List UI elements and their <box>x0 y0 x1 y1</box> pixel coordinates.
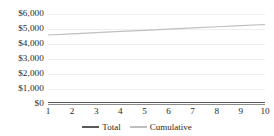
x-axis-line <box>48 104 265 105</box>
legend-item[interactable]: Total <box>82 122 120 132</box>
x-axis-tick-label: 6 <box>166 106 171 117</box>
x-axis-tick-label: 4 <box>118 106 123 117</box>
x-axis-labels: 12345678910 <box>48 106 265 118</box>
x-axis-tick-label: 2 <box>70 106 75 117</box>
legend-label: Cumulative <box>150 122 192 132</box>
legend-line-swatch <box>130 126 147 128</box>
series-line-cumulative <box>48 25 265 36</box>
x-axis-tick-label: 10 <box>260 106 269 117</box>
x-axis-tick-label: 5 <box>142 106 147 117</box>
y-axis-labels: $6,000$5,000$4,000$3,000$2,000$1,000$0 <box>0 0 44 104</box>
legend-label: Total <box>102 122 120 132</box>
y-axis-tick-label: $0 <box>0 99 44 108</box>
y-axis-tick-label: $5,000 <box>0 24 44 33</box>
line-chart: $6,000$5,000$4,000$3,000$2,000$1,000$0 1… <box>0 0 274 136</box>
y-axis-tick-label: $6,000 <box>0 9 44 18</box>
x-axis-tick-label: 8 <box>214 106 219 117</box>
x-axis-tick-label: 9 <box>239 106 244 117</box>
legend-line-swatch <box>82 126 99 128</box>
legend-item[interactable]: Cumulative <box>130 122 192 132</box>
y-axis-tick-label: $1,000 <box>0 84 44 93</box>
y-axis-tick-label: $4,000 <box>0 39 44 48</box>
x-axis-tick-label: 1 <box>46 106 51 117</box>
x-axis-tick-label: 3 <box>94 106 99 117</box>
chart-legend: TotalCumulative <box>0 120 274 134</box>
series-lines <box>48 14 265 104</box>
y-axis-tick-label: $2,000 <box>0 69 44 78</box>
y-axis-tick-label: $3,000 <box>0 54 44 63</box>
plot-area <box>48 14 265 104</box>
x-axis-tick-label: 7 <box>190 106 195 117</box>
